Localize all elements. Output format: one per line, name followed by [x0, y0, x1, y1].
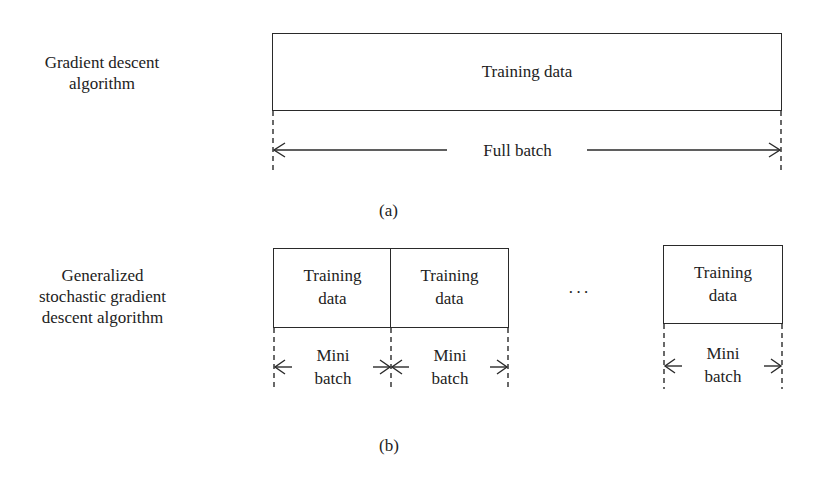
diagram-canvas: Gradient descent algorithm Training data… [0, 0, 815, 481]
connector-lines [0, 0, 815, 481]
